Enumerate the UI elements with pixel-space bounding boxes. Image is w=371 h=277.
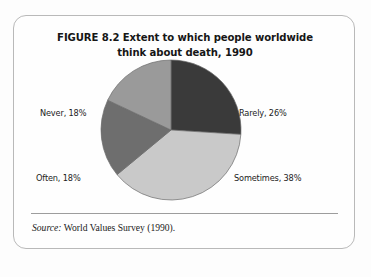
figure-frame: FIGURE 8.2 Extent to which people worldw… [13,15,355,249]
source-label: Source: [32,222,61,233]
source-divider [31,213,338,214]
pie-slice-rarely [171,60,241,134]
figure-page: FIGURE 8.2 Extent to which people worldw… [0,0,371,277]
pie-label-often: Often, 18% [36,173,81,183]
pie-chart-svg [100,59,242,201]
source-text: World Values Survey (1990). [61,222,175,233]
source-note: Source: World Values Survey (1990). [32,222,175,233]
pie-label-sometimes: Sometimes, 38% [234,173,301,183]
pie-chart: Never, 18% Often, 18% Rarely, 26% Someti… [14,16,356,216]
pie-label-never: Never, 18% [40,108,86,118]
pie-label-rarely: Rarely, 26% [239,108,287,118]
